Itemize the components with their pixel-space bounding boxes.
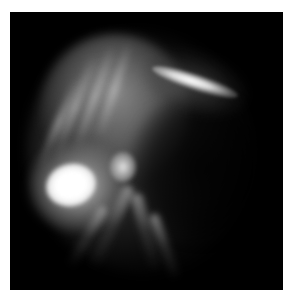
- crescent-halo: [133, 36, 256, 127]
- bright-crescent-streak: [150, 60, 241, 103]
- image-frame: [10, 12, 283, 290]
- upper-left-lobe: [15, 12, 214, 209]
- saturated-bright-blob: [41, 158, 100, 212]
- secondary-bright-spot: [110, 152, 136, 182]
